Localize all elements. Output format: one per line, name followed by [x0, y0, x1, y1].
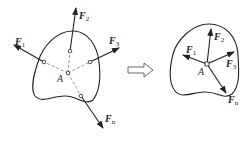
left-application-points	[42, 49, 92, 98]
force-arrow-fn	[207, 64, 226, 93]
left-force-arrows	[14, 8, 119, 128]
right-point-a-marker	[205, 62, 209, 66]
concurrent-forces-diagram: A F1 F2 F3 Fn A F1 F2 F3 Fn	[0, 0, 251, 144]
right-label-f1: F1	[185, 44, 197, 57]
right-label-fn: Fn	[227, 94, 239, 107]
force-arrow-f1	[14, 45, 44, 62]
right-figure: A F1 F2 F3 Fn	[170, 24, 238, 107]
right-label-f3: F3	[225, 58, 237, 71]
force-arrow-f3	[90, 48, 119, 62]
left-rigid-body-outline	[33, 31, 100, 102]
right-point-a-label: A	[197, 66, 205, 77]
left-label-f2: F2	[78, 10, 90, 23]
left-label-f3: F3	[108, 35, 120, 48]
force-arrow-f2	[207, 29, 211, 64]
hollow-right-arrow-icon	[128, 63, 153, 77]
force-arrow-f2	[70, 8, 76, 51]
left-point-a-label: A	[56, 73, 64, 84]
right-label-f2: F2	[213, 31, 225, 44]
left-label-fn: Fn	[104, 113, 116, 126]
left-figure: A F1 F2 F3 Fn	[14, 8, 120, 128]
left-label-f1: F1	[14, 36, 26, 49]
